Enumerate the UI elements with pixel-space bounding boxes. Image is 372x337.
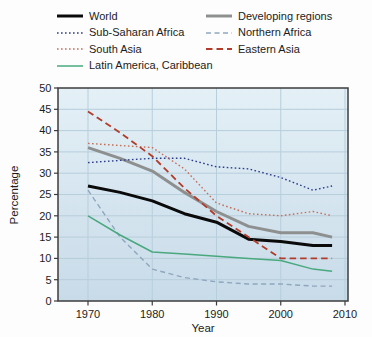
legend-swatch — [206, 44, 232, 54]
x-axis-label: Year — [58, 322, 348, 334]
legend-item-developing-regions: Developing regions — [206, 8, 332, 25]
legend-label: Sub-Saharan Africa — [89, 27, 184, 38]
legend-label: Northern Africa — [238, 27, 311, 38]
y-tick-label: 15 — [39, 231, 51, 243]
legend-swatch — [57, 28, 83, 38]
x-tick-label: 1980 — [140, 308, 164, 320]
y-tick-label: 35 — [39, 146, 51, 158]
x-tick-label: 2000 — [269, 308, 293, 320]
legend-swatch — [57, 61, 83, 71]
legend-label: Eastern Asia — [238, 44, 300, 55]
chart-legend-column-2: Developing regionsNorthern AfricaEastern… — [206, 8, 332, 58]
legend-label: South Asia — [89, 44, 142, 55]
y-tick-label: 10 — [39, 252, 51, 264]
legend-item-world: World — [57, 8, 213, 25]
legend-swatch — [57, 11, 83, 21]
y-tick-label: 45 — [39, 103, 51, 115]
legend-label: Latin America, Caribbean — [89, 60, 213, 71]
y-tick-label: 40 — [39, 124, 51, 136]
y-tick-label: 5 — [45, 274, 51, 286]
chart-legend-column-1: WorldSub-Saharan AfricaSouth AsiaLatin A… — [57, 8, 213, 74]
x-tick-label: 1970 — [76, 308, 100, 320]
legend-label: World — [89, 11, 118, 22]
y-axis-label: Percentage — [8, 89, 22, 302]
y-tick-label: 25 — [39, 188, 51, 200]
x-tick-label: 2010 — [333, 308, 357, 320]
legend-label: Developing regions — [238, 11, 332, 22]
legend-swatch — [57, 44, 83, 54]
legend-item-northern-africa: Northern Africa — [206, 25, 332, 42]
x-tick-label: 1990 — [204, 308, 228, 320]
legend-swatch — [206, 11, 232, 21]
legend-swatch — [206, 28, 232, 38]
legend-item-latin-america-caribbean: Latin America, Caribbean — [57, 58, 213, 75]
legend-item-eastern-asia: Eastern Asia — [206, 41, 332, 58]
legend-item-south-asia: South Asia — [57, 41, 213, 58]
y-tick-label: 0 — [45, 295, 51, 307]
legend-item-sub-saharan-africa: Sub-Saharan Africa — [57, 25, 213, 42]
y-tick-label: 50 — [39, 82, 51, 94]
y-tick-label: 30 — [39, 167, 51, 179]
y-tick-label: 20 — [39, 210, 51, 222]
chart-figure: 0510152025303540455019701980199020002010… — [0, 0, 372, 337]
